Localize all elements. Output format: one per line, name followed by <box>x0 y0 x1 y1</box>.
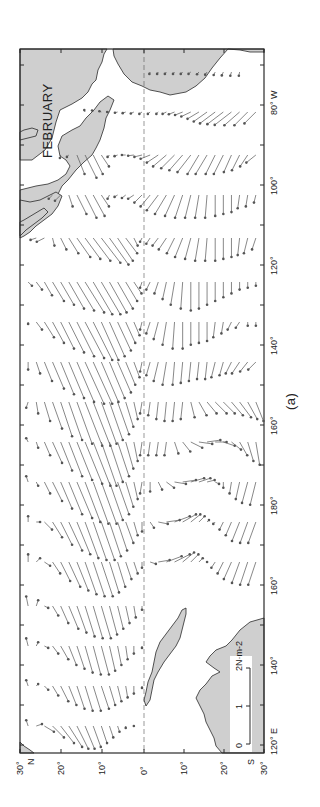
month-label: FEBRUARY <box>40 83 55 158</box>
wind-vector-head <box>25 475 28 478</box>
wind-vector-head <box>27 323 30 326</box>
wind-vector-head <box>185 483 188 486</box>
wind-vector <box>199 442 212 444</box>
wind-vector-head <box>99 521 102 524</box>
wind-vector-head <box>111 359 114 362</box>
wind-vector <box>140 482 142 493</box>
wind-vector <box>200 112 215 123</box>
latitude-label: 30° <box>259 761 269 775</box>
wind-vector-head <box>141 647 144 650</box>
wind-vector <box>191 478 204 482</box>
wind-vector-head <box>132 425 135 428</box>
wind-vector <box>77 195 87 214</box>
wind-vector <box>53 442 63 463</box>
wind-vector-head <box>161 384 164 387</box>
wind-vector <box>175 442 179 453</box>
wind-vector-head <box>106 156 109 159</box>
wind-vector-head <box>108 708 111 711</box>
wind-vector <box>109 482 122 520</box>
wind-vector-head <box>83 668 86 671</box>
wind-vector-head <box>123 397 126 400</box>
wind-vector <box>101 238 120 263</box>
wind-vector-head <box>181 347 184 350</box>
wind-vector-head <box>53 730 56 733</box>
wind-vector-head <box>161 344 164 347</box>
wind-vector-head <box>83 109 86 112</box>
wind-vector <box>126 522 134 543</box>
wind-vector-head <box>212 336 215 339</box>
wind-vector-head <box>163 454 166 457</box>
wind-vector-head <box>139 370 142 373</box>
wind-vector-head <box>53 244 56 247</box>
wind-vector <box>77 442 92 480</box>
wind-vector-head <box>123 355 126 358</box>
wind-vector-head <box>31 285 34 288</box>
wind-vector <box>173 362 175 385</box>
longitude-label: 140° <box>269 336 279 355</box>
wind-vector-head <box>145 242 148 245</box>
wind-vector-head <box>247 584 250 587</box>
wind-vector-head <box>115 523 118 526</box>
wind-vector-head <box>136 460 139 463</box>
wind-vector-head <box>111 403 114 406</box>
wind-vector-head <box>120 664 123 667</box>
wind-vector-head <box>93 355 96 358</box>
wind-vector-head <box>247 542 250 545</box>
wind-vector <box>141 155 151 159</box>
wind-vector <box>85 322 104 358</box>
wind-vector-head <box>153 292 156 295</box>
wind-vector-head <box>120 555 123 558</box>
wind-vector-head <box>59 157 62 160</box>
wind-vector <box>77 686 85 709</box>
longitude-label: 100° <box>269 176 279 195</box>
wind-vector-head <box>192 120 195 123</box>
wind-vector <box>69 522 82 551</box>
wind-vector-head <box>194 173 197 176</box>
wind-vector <box>191 442 202 448</box>
wind-vector <box>224 562 232 579</box>
wind-vector-head <box>201 446 204 449</box>
wind-vector <box>93 726 101 747</box>
wind-vector-head <box>203 515 206 518</box>
wind-vector-head <box>109 260 112 263</box>
wind-vector-head <box>119 313 122 316</box>
wind-vector-head <box>236 207 239 210</box>
wind-vector-head <box>224 372 227 375</box>
wind-vector-head <box>249 504 252 507</box>
wind-vector-head <box>146 209 149 212</box>
wind-vector-head <box>87 748 90 751</box>
wind-vector-head <box>152 165 155 168</box>
wind-vector <box>185 238 191 259</box>
wind-vector-head <box>149 490 152 493</box>
wind-vector <box>194 112 207 122</box>
wind-vector-head <box>212 523 215 526</box>
wind-vector-head <box>173 486 176 489</box>
wind-vector <box>147 155 158 163</box>
wind-vector <box>101 646 109 675</box>
wind-vector-head <box>91 517 94 520</box>
wind-vector <box>101 482 116 524</box>
wind-vector-head <box>229 75 232 78</box>
wind-vector <box>226 522 232 535</box>
wind-vector <box>215 112 232 125</box>
wind-vector-head <box>171 384 174 387</box>
wind-vector-head <box>67 622 70 625</box>
wind-vector-head <box>49 492 52 495</box>
wind-vector-head <box>134 384 137 387</box>
wind-vector-head <box>203 477 206 480</box>
latitude-label: 20° <box>56 761 66 775</box>
wind-vector-head <box>179 307 182 310</box>
wind-vector-head <box>134 616 137 619</box>
latitude-label: 10° <box>97 761 107 775</box>
wind-vector <box>154 282 158 293</box>
wind-vector <box>166 482 174 488</box>
wind-vector-head <box>83 708 86 711</box>
wind-vector <box>159 238 167 249</box>
wind-vector <box>140 442 142 455</box>
wind-vector-head <box>25 719 28 722</box>
land-new-guinea <box>144 608 186 706</box>
wind-vector-head <box>37 485 40 488</box>
wind-vector-head <box>51 380 54 383</box>
wind-vector-head <box>246 286 249 289</box>
wind-vector <box>134 322 140 335</box>
